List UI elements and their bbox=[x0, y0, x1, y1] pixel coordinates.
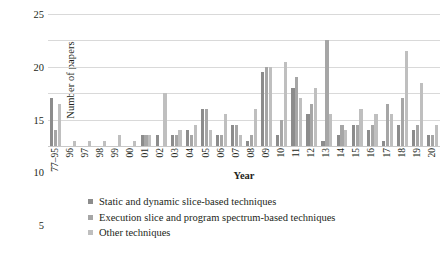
x-tick: 09 bbox=[259, 148, 274, 172]
bar bbox=[314, 88, 317, 146]
x-tick-label: 17 bbox=[383, 148, 393, 158]
bar bbox=[344, 130, 347, 146]
bar bbox=[412, 130, 415, 146]
bar bbox=[254, 109, 257, 146]
bar bbox=[306, 114, 309, 146]
chart-legend: Static and dynamic slice-based technique… bbox=[88, 196, 335, 238]
legend-item[interactable]: Static and dynamic slice-based technique… bbox=[88, 196, 335, 207]
x-tick-label: 03 bbox=[171, 148, 181, 158]
bar bbox=[201, 109, 204, 146]
bar bbox=[325, 40, 328, 146]
bar bbox=[295, 77, 298, 146]
bar bbox=[186, 130, 189, 146]
bar bbox=[340, 125, 343, 146]
bar bbox=[397, 125, 400, 146]
x-tick-label: 98 bbox=[96, 148, 106, 158]
x-tick-label: 99 bbox=[111, 148, 121, 158]
bar bbox=[291, 88, 294, 146]
bar bbox=[224, 114, 227, 146]
bar bbox=[148, 135, 151, 146]
bar bbox=[386, 104, 389, 146]
bar bbox=[420, 83, 423, 146]
x-tick: 05 bbox=[199, 148, 214, 172]
x-tick-label: 01 bbox=[141, 148, 151, 158]
bar bbox=[431, 135, 434, 146]
bar-series-container bbox=[48, 14, 440, 146]
x-tick: 15 bbox=[350, 148, 365, 172]
bar-group bbox=[93, 14, 108, 146]
bar-group bbox=[274, 14, 289, 146]
bar-chart-figure: Number of papers 0510152025 77–959697989… bbox=[0, 0, 448, 257]
bar bbox=[178, 130, 181, 146]
bar-group bbox=[184, 14, 199, 146]
x-axis-tick-labels: 77–9596979899000102030405060708091011121… bbox=[48, 148, 440, 172]
x-tick: 20 bbox=[425, 148, 440, 172]
bar bbox=[321, 141, 324, 146]
bar bbox=[269, 67, 272, 146]
y-tick-label: 15 bbox=[18, 114, 44, 125]
x-tick-label: 08 bbox=[247, 148, 257, 158]
x-tick-label: 04 bbox=[186, 148, 196, 158]
bar bbox=[190, 135, 193, 146]
bar-group bbox=[319, 14, 334, 146]
x-tick: 16 bbox=[365, 148, 380, 172]
bar bbox=[231, 125, 234, 146]
bar bbox=[194, 125, 197, 146]
x-axis-title: Year bbox=[48, 170, 440, 181]
x-tick: 11 bbox=[289, 148, 304, 172]
bar bbox=[133, 141, 136, 146]
y-tick-label: 25 bbox=[18, 9, 44, 20]
x-tick: 06 bbox=[214, 148, 229, 172]
bar bbox=[239, 135, 242, 146]
x-tick: 04 bbox=[184, 148, 199, 172]
x-tick: 19 bbox=[410, 148, 425, 172]
x-tick: 12 bbox=[304, 148, 319, 172]
bar bbox=[405, 51, 408, 146]
x-tick: 03 bbox=[169, 148, 184, 172]
bar bbox=[352, 125, 355, 146]
bar bbox=[280, 120, 283, 146]
bar bbox=[50, 98, 53, 146]
legend-item[interactable]: Other techniques bbox=[88, 227, 335, 238]
x-tick: 17 bbox=[380, 148, 395, 172]
x-tick: 10 bbox=[274, 148, 289, 172]
bar-group bbox=[244, 14, 259, 146]
y-tick-label: 10 bbox=[18, 167, 44, 178]
bar-group bbox=[48, 14, 63, 146]
bar bbox=[416, 125, 419, 146]
bar bbox=[427, 135, 430, 146]
bar-group bbox=[229, 14, 244, 146]
x-tick: 08 bbox=[244, 148, 259, 172]
bar bbox=[118, 135, 121, 146]
bar-group bbox=[304, 14, 319, 146]
bar-group bbox=[425, 14, 440, 146]
x-tick-label: 15 bbox=[352, 148, 362, 158]
bar bbox=[435, 125, 438, 146]
x-tick: 01 bbox=[138, 148, 153, 172]
x-tick-label: 02 bbox=[156, 148, 166, 158]
bar bbox=[356, 125, 359, 146]
bar-group bbox=[365, 14, 380, 146]
bar-group bbox=[395, 14, 410, 146]
bar bbox=[382, 141, 385, 146]
bar bbox=[144, 135, 147, 146]
bar bbox=[371, 125, 374, 146]
x-tick-label: 16 bbox=[367, 148, 377, 158]
bar bbox=[141, 135, 144, 146]
x-tick: 18 bbox=[395, 148, 410, 172]
bar bbox=[310, 104, 313, 146]
bar bbox=[205, 109, 208, 146]
x-tick: 14 bbox=[334, 148, 349, 172]
y-tick-label: 5 bbox=[18, 220, 44, 231]
legend-label: Static and dynamic slice-based technique… bbox=[99, 196, 276, 207]
bar bbox=[246, 141, 249, 146]
bar-group bbox=[123, 14, 138, 146]
x-tick-label: 11 bbox=[292, 148, 302, 157]
bar bbox=[299, 98, 302, 146]
bar-group bbox=[214, 14, 229, 146]
legend-item[interactable]: Execution slice and program spectrum-bas… bbox=[88, 212, 335, 223]
bar-group bbox=[380, 14, 395, 146]
x-tick-label: 96 bbox=[66, 148, 76, 158]
bar bbox=[103, 141, 106, 146]
bar bbox=[250, 135, 253, 146]
